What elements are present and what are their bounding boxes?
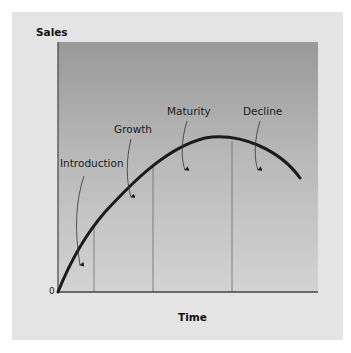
stage-label-introduction: Introduction xyxy=(60,157,124,169)
origin-label: 0 xyxy=(49,286,55,296)
stage-label-decline: Decline xyxy=(243,105,282,117)
x-axis-title: Time xyxy=(178,311,207,323)
life-cycle-graphic xyxy=(0,0,351,353)
stage-label-maturity: Maturity xyxy=(167,105,211,117)
stage-label-growth: Growth xyxy=(114,123,152,135)
y-axis-title: Sales xyxy=(36,26,68,38)
